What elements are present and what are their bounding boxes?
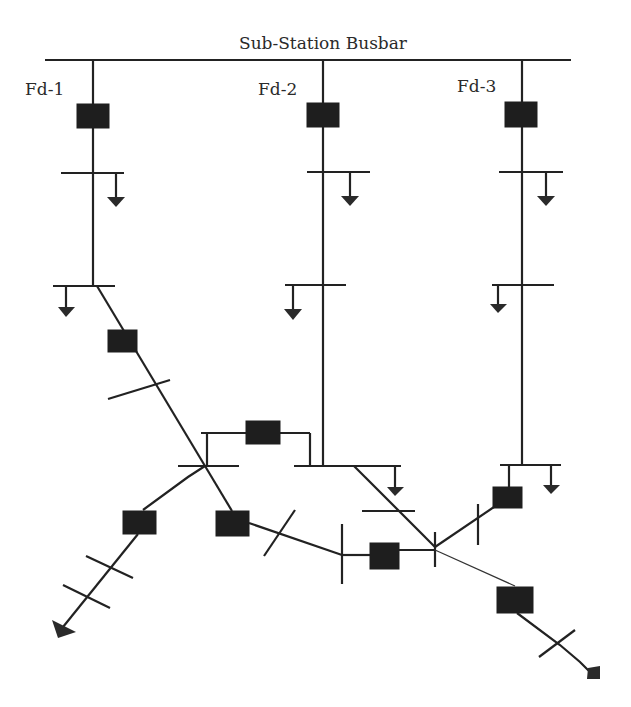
tie-breaker-icon — [246, 421, 280, 444]
feeder-label-fd3: Fd-3 — [457, 76, 496, 96]
breaker-icon — [493, 487, 522, 508]
distribution-network-diagram: Sub-Station Busbar Fd-1 Fd-2 Fd-3 — [0, 0, 631, 707]
breaker-icon — [216, 511, 249, 536]
branch-lower-left-line — [63, 534, 138, 627]
load-arrow-icon — [543, 485, 560, 494]
load-arrow-icon — [537, 196, 555, 206]
left-junction — [52, 421, 435, 638]
section-tick — [108, 380, 170, 399]
feeder-label-fd2: Fd-2 — [258, 79, 297, 99]
feeder-end-arrow-icon — [587, 666, 600, 679]
breaker-icon — [108, 330, 137, 352]
feeder-1-diagonal — [97, 286, 205, 466]
breaker-icon — [77, 104, 109, 128]
section-tick — [63, 585, 110, 608]
load-arrow-icon — [341, 196, 359, 206]
load-arrow-icon — [284, 309, 302, 320]
load-arrow-icon — [58, 307, 75, 317]
busbar-title: Sub-Station Busbar — [239, 33, 408, 53]
feeder-1 — [53, 60, 205, 466]
breaker-icon — [370, 543, 399, 569]
section-tick — [86, 556, 133, 578]
feeder-3 — [435, 60, 563, 547]
feeder-end-arrow-icon — [52, 620, 76, 638]
feeder-3-branch — [435, 507, 494, 547]
branch-middle-line — [249, 523, 342, 555]
breaker-icon — [307, 103, 339, 127]
branch-lower-right-line — [517, 613, 592, 674]
breaker-icon — [505, 102, 537, 127]
feeder-label-fd1: Fd-1 — [25, 79, 64, 99]
load-arrow-icon — [387, 487, 404, 496]
load-arrow-icon — [107, 197, 125, 207]
right-junction — [435, 532, 600, 679]
load-arrow-icon — [490, 304, 507, 313]
breaker-icon — [123, 511, 156, 534]
feeder-2 — [284, 60, 435, 547]
branch-lower-right-thin — [435, 550, 515, 586]
branch-lower-left — [143, 466, 205, 510]
breaker-icon — [497, 587, 533, 613]
branch-middle — [205, 466, 232, 511]
section-tick — [264, 510, 295, 556]
